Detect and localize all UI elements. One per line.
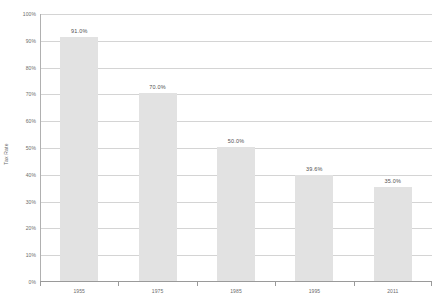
x-axis-tick-label: 1995 bbox=[309, 288, 321, 294]
y-axis-tick-label: 10% bbox=[26, 252, 36, 258]
y-axis-tick-labels: 0%10%20%30%40%50%60%70%80%90%100% bbox=[12, 14, 38, 282]
x-axis-tick-labels: 19551975198519952011 bbox=[40, 288, 432, 302]
x-axis-tick bbox=[275, 282, 276, 286]
y-axis-tick-label: 60% bbox=[26, 118, 36, 124]
bar-value-label: 50.0% bbox=[228, 138, 245, 144]
bar-group: 39.6% bbox=[275, 14, 353, 281]
bar-value-label: 70.0% bbox=[149, 84, 166, 90]
bar bbox=[60, 37, 98, 281]
bar-value-label: 39.6% bbox=[306, 166, 323, 172]
x-axis-tick-label: 1985 bbox=[230, 288, 242, 294]
y-axis-tick-label: 50% bbox=[26, 145, 36, 151]
y-axis-tick-label: 90% bbox=[26, 38, 36, 44]
bar bbox=[374, 187, 412, 281]
y-axis-tick-label: 20% bbox=[26, 225, 36, 231]
bar-group: 70.0% bbox=[118, 14, 196, 281]
x-axis-tick bbox=[431, 282, 432, 286]
y-axis-tick-label: 0% bbox=[29, 279, 36, 285]
x-axis-tick bbox=[118, 282, 119, 286]
x-axis-tick bbox=[354, 282, 355, 286]
x-axis-tick-label: 2011 bbox=[387, 288, 398, 294]
x-axis-ticks bbox=[40, 282, 432, 286]
bar bbox=[217, 147, 255, 281]
y-axis-tick-label: 80% bbox=[26, 65, 36, 71]
y-axis-tick-label: 70% bbox=[26, 91, 36, 97]
bars-layer: 91.0%70.0%50.0%39.6%35.0% bbox=[40, 14, 432, 282]
y-axis-tick-label: 40% bbox=[26, 172, 36, 178]
bar bbox=[295, 175, 333, 281]
bar-value-label: 91.0% bbox=[71, 28, 88, 34]
bar-value-label: 35.0% bbox=[384, 178, 401, 184]
x-axis-tick-label: 1955 bbox=[73, 288, 85, 294]
x-axis-tick-label: 1975 bbox=[152, 288, 164, 294]
bar-group: 50.0% bbox=[197, 14, 275, 281]
bar-group: 35.0% bbox=[354, 14, 432, 281]
x-axis-tick bbox=[197, 282, 198, 286]
y-axis-title: Tax Rate bbox=[0, 0, 12, 308]
bar bbox=[139, 93, 177, 281]
plot-area: 91.0%70.0%50.0%39.6%35.0% bbox=[40, 14, 432, 282]
bar-group: 91.0% bbox=[40, 14, 118, 281]
y-axis-tick-label: 30% bbox=[26, 199, 36, 205]
x-axis-tick bbox=[40, 282, 41, 286]
y-axis-tick-label: 100% bbox=[23, 11, 36, 17]
bar-chart: Tax Rate 0%10%20%30%40%50%60%70%80%90%10… bbox=[0, 0, 436, 308]
